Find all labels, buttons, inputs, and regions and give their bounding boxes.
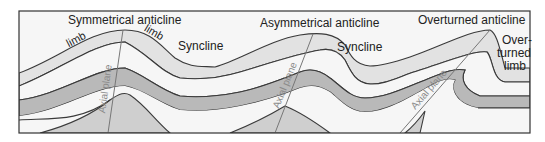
label-overturned-limb-1: Over- — [502, 34, 532, 46]
label-syncline-2: Syncline — [337, 41, 382, 53]
label-overturned-anticline: Overturned anticline — [418, 14, 525, 26]
label-syncline-1: Syncline — [178, 40, 223, 52]
label-asymmetrical-anticline: Asymmetrical anticline — [260, 17, 379, 29]
label-overturned-limb-2: turned — [497, 47, 531, 59]
label-overturned-limb-3: limb — [504, 60, 526, 72]
label-symmetrical-anticline: Symmetrical anticline — [68, 14, 181, 26]
